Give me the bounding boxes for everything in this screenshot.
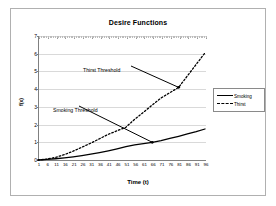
x-tick-label: 46 [116, 162, 121, 167]
y-tick-mark [37, 107, 39, 108]
y-tick-label: 6 [34, 51, 37, 57]
x-tick-label: 6 [47, 162, 49, 167]
x-tick-label: 41 [107, 162, 112, 167]
x-tick-label: 96 [204, 162, 209, 167]
y-tick-mark [37, 89, 39, 90]
legend-item-smoking[interactable]: Smoking [216, 92, 262, 100]
x-tick-label: 66 [151, 162, 156, 167]
plot-area: 01234567 1611162126313641465156616671768… [38, 36, 206, 161]
y-tick-mark [37, 160, 39, 161]
x-tick-label: 51 [124, 162, 129, 167]
annotation-smoking-threshold: Smoking Threshold [53, 107, 98, 113]
x-tick-label: 31 [89, 162, 94, 167]
legend-line-dashed-icon [216, 101, 234, 107]
gridline [39, 142, 206, 143]
chart-legend: Smoking Thirst [213, 88, 265, 112]
x-tick-label: 81 [177, 162, 182, 167]
y-tick-label: 7 [34, 33, 37, 39]
y-tick-label: 4 [34, 86, 37, 92]
x-tick-label: 16 [63, 162, 68, 167]
y-tick-mark [37, 71, 39, 72]
legend-line-solid-icon [216, 93, 234, 99]
gridline [39, 54, 206, 55]
y-tick-label: 5 [34, 68, 37, 74]
x-tick-label: 11 [54, 162, 59, 167]
x-tick-label: 21 [72, 162, 77, 167]
x-tick-label: 26 [80, 162, 85, 167]
y-tick-mark [37, 125, 39, 126]
chart-title: Desire Functions [11, 19, 265, 26]
gridline [39, 89, 206, 90]
annotation-thirst-threshold: Thirst Threshold [83, 67, 120, 73]
legend-item-thirst[interactable]: Thirst [216, 100, 262, 108]
x-tick-label: 61 [142, 162, 147, 167]
x-tick-label: 76 [168, 162, 173, 167]
legend-label-smoking: Smoking [234, 94, 252, 99]
y-tick-label: 2 [34, 122, 37, 128]
y-tick-mark [37, 54, 39, 55]
x-tick-label: 1 [38, 162, 40, 167]
x-tick-label: 86 [186, 162, 191, 167]
x-tick-label: 56 [133, 162, 138, 167]
chart-frame: Desire Functions f(x) 01234567 161116212… [10, 8, 266, 196]
x-tick-label: 36 [98, 162, 103, 167]
gridline [39, 125, 206, 126]
x-tick-label: 91 [195, 162, 200, 167]
y-tick-label: 0 [34, 157, 37, 163]
y-axis-label: f(x) [18, 98, 24, 106]
gridline [39, 71, 206, 72]
x-tick-label: 71 [160, 162, 165, 167]
x-minor-tick-mark [206, 36, 207, 38]
y-tick-label: 3 [34, 104, 37, 110]
x-axis-label: Time (t) [11, 179, 265, 185]
y-tick-label: 1 [34, 139, 37, 145]
legend-label-thirst: Thirst [234, 102, 245, 107]
y-tick-mark [37, 142, 39, 143]
